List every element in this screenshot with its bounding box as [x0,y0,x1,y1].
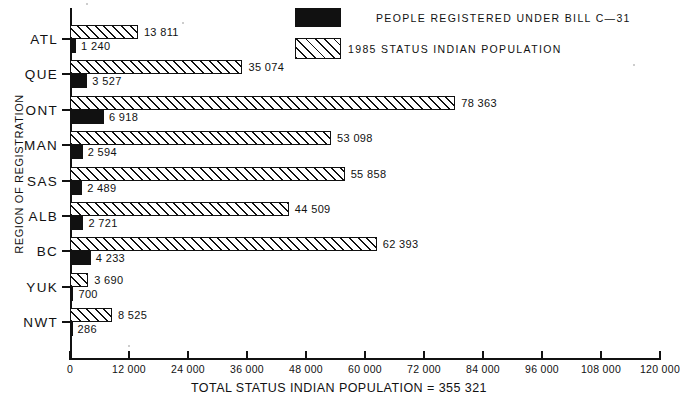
legend-label-1985-population: 1985 STATUS INDIAN POPULATION [348,43,562,55]
scan-speckle [128,345,130,347]
bar-1985-population [70,131,331,145]
bar-value-bill-c31: 4 233 [96,252,125,264]
x-axis-tick [69,351,71,360]
x-axis-tick [482,351,484,360]
x-axis-tick-label: 120 000 [640,363,680,375]
bar-value-bill-c31: 2 489 [87,182,116,194]
bar-value-1985-population: 3 690 [94,274,123,286]
x-axis-tick [305,351,307,360]
bar-value-bill-c31: 286 [78,323,97,335]
bar-value-1985-population: 55 858 [351,168,387,180]
bar-value-1985-population: 8 525 [118,309,147,321]
bar-1985-population [70,167,345,181]
bar-bill-c31 [70,74,87,88]
bar-bill-c31 [70,287,73,301]
x-axis-tick [246,351,248,360]
bar-1985-population [70,202,289,216]
bar-bill-c31 [70,39,76,53]
bar-1985-population [70,237,377,251]
x-axis-tick-label: 72 000 [407,363,441,375]
bar-1985-population [70,273,88,287]
bar-bill-c31 [70,181,82,195]
bar-value-bill-c31: 1 240 [81,40,110,52]
y-axis-category-ont: ONT [0,102,58,117]
y-axis-category-alb: ALB [0,209,58,224]
y-axis-category-sas: SAS [0,173,58,188]
bar-1985-population [70,308,112,322]
x-axis-tick [187,351,189,360]
bar-value-bill-c31: 6 918 [109,111,138,123]
y-axis-category-atl: ATL [0,32,58,47]
bar-value-bill-c31: 700 [78,288,97,300]
legend-swatch-bill-c31 [295,8,341,27]
scan-speckle [196,368,198,370]
x-axis-tick [423,351,425,360]
y-axis-category-man: MAN [0,138,58,153]
legend-swatch-1985-population [295,38,341,59]
bar-bill-c31 [70,216,83,230]
x-axis-tick-label: 108 000 [581,363,621,375]
bar-value-1985-population: 53 098 [337,132,373,144]
bar-1985-population [70,25,138,39]
bar-value-1985-population: 13 811 [144,26,179,38]
scan-speckle [182,22,184,24]
scan-speckle [633,64,635,66]
bar-value-1985-population: 78 363 [461,97,497,109]
x-axis-tick [600,351,602,360]
x-axis-tick-label: 24 000 [171,363,205,375]
bar-bill-c31 [70,322,73,336]
x-axis-tick-label: 12 000 [112,363,146,375]
x-axis-tick-label: 0 [67,363,73,375]
bar-value-bill-c31: 2 721 [88,217,117,229]
x-axis-tick [128,351,130,360]
scan-speckle [86,3,88,5]
y-axis-category-bc: BC [0,244,58,259]
x-axis-tick [364,351,366,360]
x-axis-title: TOTAL STATUS INDIAN POPULATION = 355 321 [0,381,678,395]
x-axis-tick-label: 96 000 [525,363,559,375]
y-axis-category-que: QUE [0,67,58,82]
x-axis-tick-label: 84 000 [466,363,500,375]
bar-bill-c31 [70,251,91,265]
bar-1985-population [70,96,455,110]
y-axis-category-nwt: NWT [0,315,58,330]
bar-value-bill-c31: 2 594 [88,146,117,158]
bar-1985-population [70,60,242,74]
legend-label-bill-c31: PEOPLE REGISTERED UNDER BILL C—31 [376,12,631,24]
bar-bill-c31 [70,110,104,124]
bar-value-1985-population: 44 509 [295,203,331,215]
x-axis-tick-label: 48 000 [289,363,323,375]
bar-value-1985-population: 62 393 [383,238,419,250]
x-axis-tick [659,351,661,360]
bar-value-bill-c31: 3 527 [92,75,121,87]
x-axis-tick-label: 60 000 [348,363,382,375]
bar-bill-c31 [70,145,83,159]
x-axis-tick-label: 36 000 [230,363,264,375]
bar-value-1985-population: 35 074 [248,61,284,73]
x-axis-tick [541,351,543,360]
y-axis-category-yuk: YUK [0,279,58,294]
